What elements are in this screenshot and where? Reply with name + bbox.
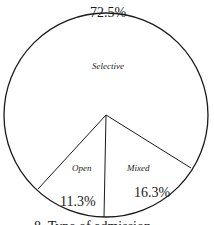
mixed-label: Mixed (127, 163, 150, 173)
figure-caption: 8. Type of admission (34, 219, 151, 225)
selective-label: Selective (92, 61, 124, 71)
selective-percent-label: 72.5% (90, 5, 126, 21)
open-percent-label: 11.3% (60, 194, 96, 210)
open-label: Open (72, 163, 92, 173)
pie-chart (0, 0, 214, 225)
mixed-percent-label: 16.3% (134, 185, 170, 201)
